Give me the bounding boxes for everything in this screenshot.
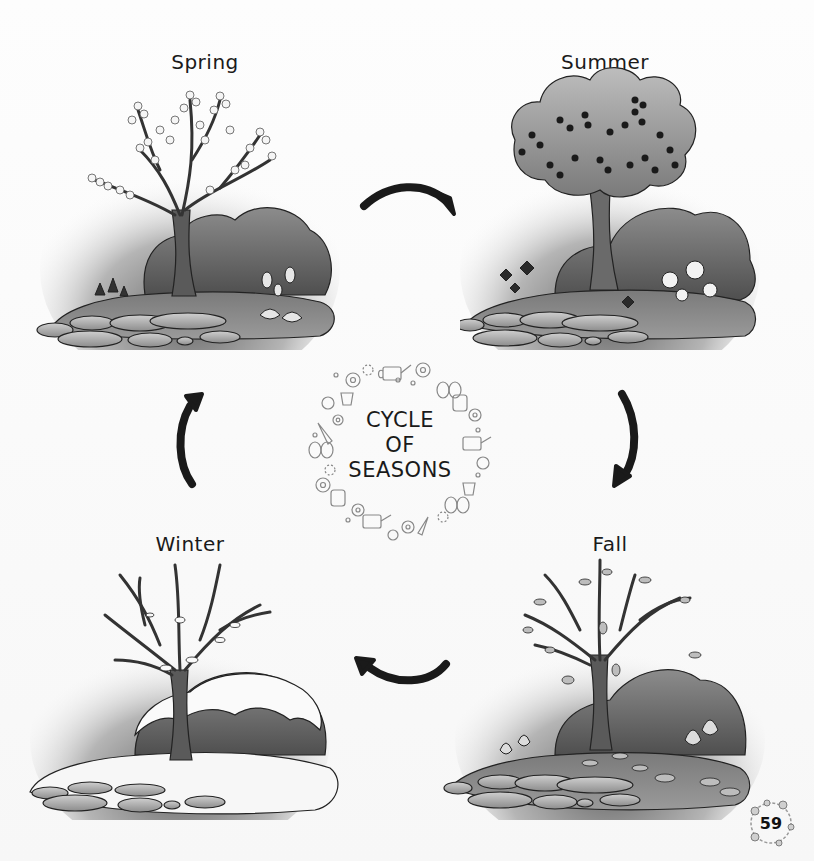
season-winter: Winter (20, 520, 350, 820)
center-title-line-3: SEASONS (348, 458, 451, 483)
center-title: CYCLE OF SEASONS (303, 345, 497, 545)
center-title-line-1: CYCLE (366, 408, 434, 433)
fall-scene-illustration (440, 520, 780, 820)
winter-scene-illustration (20, 520, 350, 820)
season-spring: Spring (20, 40, 350, 350)
arrow-summer-to-fall (600, 380, 660, 500)
arrow-fall-to-winter (350, 650, 460, 710)
summer-scene-illustration (460, 40, 790, 350)
coloring-page: Spring (0, 0, 814, 861)
arrow-winter-to-spring (160, 380, 220, 500)
arrow-spring-to-summer (350, 170, 470, 230)
season-summer: Summer (460, 40, 790, 350)
center-title-line-2: OF (385, 433, 415, 458)
page-number: 59 (745, 797, 797, 849)
cycle-of-seasons-badge: CYCLE OF SEASONS (303, 345, 497, 545)
spring-scene-illustration (20, 40, 350, 350)
page-number-badge: 59 (745, 797, 797, 849)
season-fall: Fall (440, 520, 780, 820)
